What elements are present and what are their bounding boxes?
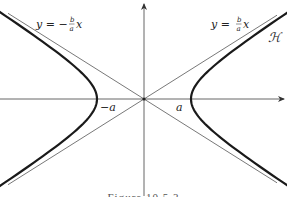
label-lhs: y = − [35, 18, 68, 31]
asymptote-positive [8, 15, 277, 185]
hyperbola-diagram: y = − b a x y = b a x ℋ −a a [0, 0, 287, 197]
label-lhs: y = [210, 18, 230, 31]
origin-point [142, 97, 145, 100]
label-var: x [76, 18, 83, 31]
figure-caption: Figure 10.5.3 [0, 191, 287, 197]
label-den: a [70, 25, 74, 33]
label-num: b [70, 16, 75, 24]
asymptote-negative-label: y = − b a x [35, 16, 83, 33]
vertex-left-label: −a [100, 101, 116, 114]
asymptote-negative [8, 13, 277, 183]
curve-label: ℋ [268, 30, 283, 45]
label-den: a [237, 25, 241, 33]
label-var: x [243, 18, 250, 31]
vertex-right-label: a [176, 101, 183, 114]
label-num: b [237, 16, 242, 24]
asymptote-positive-label: y = b a x [210, 16, 250, 33]
